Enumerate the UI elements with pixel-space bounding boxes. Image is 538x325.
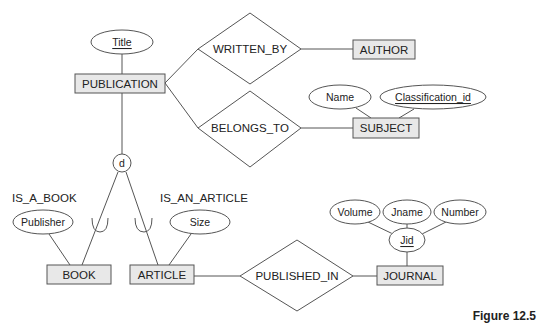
attribute-publisher-label: Publisher xyxy=(21,216,65,228)
attribute-publisher[interactable]: Publisher xyxy=(13,210,73,234)
attribute-number-label: Number xyxy=(441,206,479,218)
attribute-classification-id-label: Classification_id xyxy=(395,91,471,103)
label-is-an-article: IS_AN_ARTICLE xyxy=(160,192,248,204)
entity-journal-label: JOURNAL xyxy=(383,270,437,282)
entity-journal[interactable]: JOURNAL xyxy=(377,266,443,285)
entity-article-label: ARTICLE xyxy=(138,269,187,281)
attribute-volume[interactable]: Volume xyxy=(330,200,380,224)
attribute-title-label: Title xyxy=(112,36,132,48)
entity-article[interactable]: ARTICLE xyxy=(130,265,194,284)
attribute-jname-label: Jname xyxy=(391,206,423,218)
entity-book[interactable]: BOOK xyxy=(47,265,111,284)
entity-subject[interactable]: SUBJECT xyxy=(353,118,419,138)
attribute-number[interactable]: Number xyxy=(434,200,486,224)
entity-subject-label: SUBJECT xyxy=(360,122,412,134)
attribute-classification-id[interactable]: Classification_id xyxy=(380,85,486,109)
attribute-name[interactable]: Name xyxy=(309,85,371,109)
attribute-volume-label: Volume xyxy=(337,206,372,218)
relationship-published-in[interactable]: PUBLISHED_IN xyxy=(240,240,353,311)
attribute-size-label: Size xyxy=(190,216,211,228)
figure-caption: Figure 12.5 xyxy=(473,309,537,323)
disjoint-symbol: d xyxy=(119,157,125,169)
attribute-jid-label: Jid xyxy=(400,234,414,246)
subset-symbol-article xyxy=(135,218,152,232)
entity-book-label: BOOK xyxy=(62,269,96,281)
relationship-belongs-to-label: BELONGS_TO xyxy=(211,122,289,134)
disjoint-circle[interactable]: d xyxy=(113,154,131,172)
relationship-written-by[interactable]: WRITTEN_BY xyxy=(198,13,301,84)
entity-author-label: AUTHOR xyxy=(360,44,409,56)
entity-publication-label: PUBLICATION xyxy=(82,78,158,90)
relationship-written-by-label: WRITTEN_BY xyxy=(213,43,287,55)
attribute-jname[interactable]: Jname xyxy=(383,200,431,224)
eer-diagram: Title PUBLICATION WRITTEN_BY BELONGS_TO … xyxy=(0,0,538,325)
entity-author[interactable]: AUTHOR xyxy=(353,40,415,59)
subset-symbol-book xyxy=(92,218,108,232)
attribute-jid[interactable]: Jid xyxy=(389,228,425,252)
relationship-published-in-label: PUBLISHED_IN xyxy=(255,270,338,282)
entity-publication[interactable]: PUBLICATION xyxy=(75,74,165,93)
attribute-name-label: Name xyxy=(326,91,354,103)
attribute-title[interactable]: Title xyxy=(91,30,153,54)
attribute-size[interactable]: Size xyxy=(170,210,230,234)
label-is-a-book: IS_A_BOOK xyxy=(12,192,77,204)
relationship-belongs-to[interactable]: BELONGS_TO xyxy=(198,91,301,167)
